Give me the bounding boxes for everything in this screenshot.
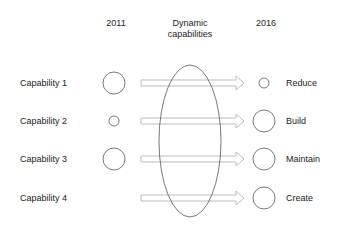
circle-2016-row4 <box>253 187 275 209</box>
circle-2011-row1 <box>103 72 125 94</box>
circle-2011-row3 <box>103 148 125 170</box>
arrow-4 <box>141 191 244 205</box>
arrow-1 <box>141 76 244 90</box>
arrow-2 <box>141 114 244 128</box>
arrow-3 <box>141 152 244 166</box>
circle-2016-row1 <box>259 78 269 88</box>
diagram-canvas <box>0 0 339 227</box>
circle-2016-row3 <box>253 148 275 170</box>
circle-2016-row2 <box>253 110 275 132</box>
dynamic-capabilities-ellipse <box>159 65 221 217</box>
circle-2011-row2 <box>109 116 119 126</box>
